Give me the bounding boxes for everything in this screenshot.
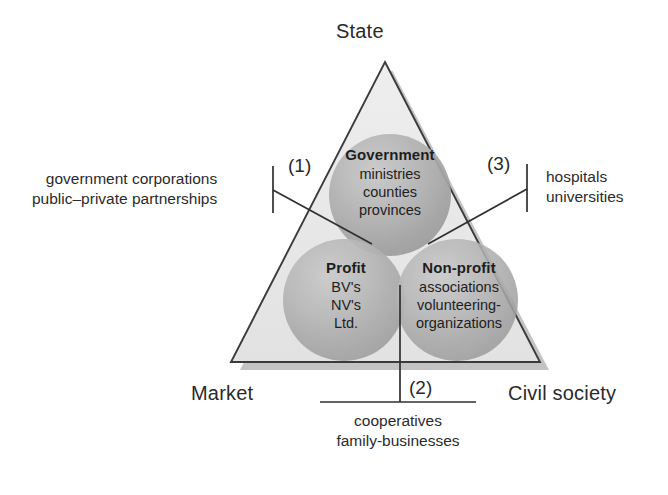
- callout-3-line-1: hospitals: [546, 167, 624, 187]
- circle-title-government: Government: [345, 146, 434, 165]
- circle-label-government: Government ministries counties provinces: [345, 146, 434, 220]
- circle-title-profit: Profit: [326, 259, 366, 278]
- figure-canvas: State Market Civil society Government mi…: [0, 0, 668, 495]
- callout-2-line-2: family-businesses: [336, 431, 459, 451]
- circle-item-organizations: organizations: [416, 314, 502, 332]
- callout-marker-2: (2): [409, 377, 432, 399]
- corner-label-civil-society: Civil society: [508, 382, 616, 406]
- circle-item-nvs: NV's: [326, 296, 366, 314]
- diagram-graphics: [0, 0, 668, 495]
- circle-item-associations: associations: [416, 278, 502, 296]
- callout-marker-3: (3): [487, 153, 510, 175]
- corner-label-state: State: [336, 20, 384, 44]
- circle-item-ministries: ministries: [345, 165, 434, 183]
- circle-label-nonprofit: Non-profit associations volunteering- or…: [416, 259, 502, 333]
- callout-3-line-2: universities: [546, 187, 624, 207]
- circle-item-bvs: BV's: [326, 278, 366, 296]
- callout-text-2: cooperatives family-businesses: [336, 411, 459, 451]
- circle-item-ltd: Ltd.: [326, 314, 366, 332]
- circle-item-provinces: provinces: [345, 201, 434, 219]
- circle-item-counties: counties: [345, 183, 434, 201]
- callout-marker-1: (1): [288, 155, 311, 177]
- circle-item-volunteering: volunteering-: [416, 296, 502, 314]
- circle-title-nonprofit: Non-profit: [416, 259, 502, 278]
- callout-1-line-2: public–private partnerships: [32, 189, 217, 209]
- callout-2-line-1: cooperatives: [336, 411, 459, 431]
- callout-1-line-1: government corporations: [32, 169, 217, 189]
- callout-text-1: government corporations public–private p…: [32, 169, 217, 209]
- corner-label-market: Market: [191, 382, 253, 406]
- circle-label-profit: Profit BV's NV's Ltd.: [326, 259, 366, 333]
- callout-text-3: hospitals universities: [546, 167, 624, 207]
